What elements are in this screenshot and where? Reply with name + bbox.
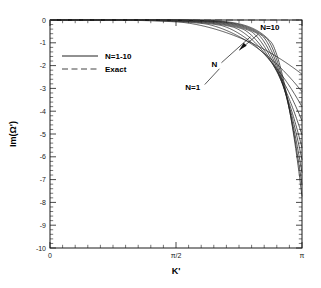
series-curve-n-9 [50, 20, 302, 185]
legend-label-exact: Exact [105, 65, 127, 74]
y-tick-label: -9 [40, 222, 46, 229]
y-tick-label: 0 [42, 17, 46, 24]
series-curve-n-3 [50, 20, 302, 107]
y-tick-label: -3 [40, 85, 46, 92]
y-tick-label: -10 [36, 245, 46, 252]
x-tick-label: π/2 [171, 252, 182, 259]
series-curve-n-8 [50, 20, 302, 173]
axis-labels-layer: K'Im(Ω') [8, 121, 180, 276]
legend-label-n-1-10: N=1-10 [105, 52, 132, 61]
legend: N=1-10Exact [62, 52, 132, 74]
x-axis-title: K' [172, 266, 181, 276]
series-curve-n-5 [50, 20, 302, 135]
y-tick-label: -1 [40, 39, 46, 46]
y-tick-label: -4 [40, 108, 46, 115]
series-curve-n-6 [50, 20, 302, 148]
y-tick-label: -7 [40, 176, 46, 183]
y-axis-title: Im(Ω') [8, 121, 18, 147]
y-tick-label: -8 [40, 199, 46, 206]
y-tick-label: -2 [40, 62, 46, 69]
series-curve-n-7 [50, 20, 302, 160]
figure-im-omega-vs-k: 0-1-2-3-4-5-6-7-8-9-100π/2π N=10NN=1 N=1… [0, 0, 321, 288]
annotation-n-direction-leader [221, 37, 250, 63]
chart-canvas: 0-1-2-3-4-5-6-7-8-9-100π/2π N=10NN=1 N=1… [0, 0, 321, 288]
x-tick-label: π [300, 252, 305, 259]
annotation-n: N [212, 60, 218, 69]
x-tick-label: 0 [48, 252, 52, 259]
annotation-n-1: N=1 [185, 83, 200, 92]
annotation-n-10: N=10 [260, 23, 280, 32]
y-tick-label: -6 [40, 153, 46, 160]
curves-layer [50, 20, 302, 197]
y-tick-label: -5 [40, 131, 46, 138]
annotation-n-1-leader [205, 69, 220, 85]
